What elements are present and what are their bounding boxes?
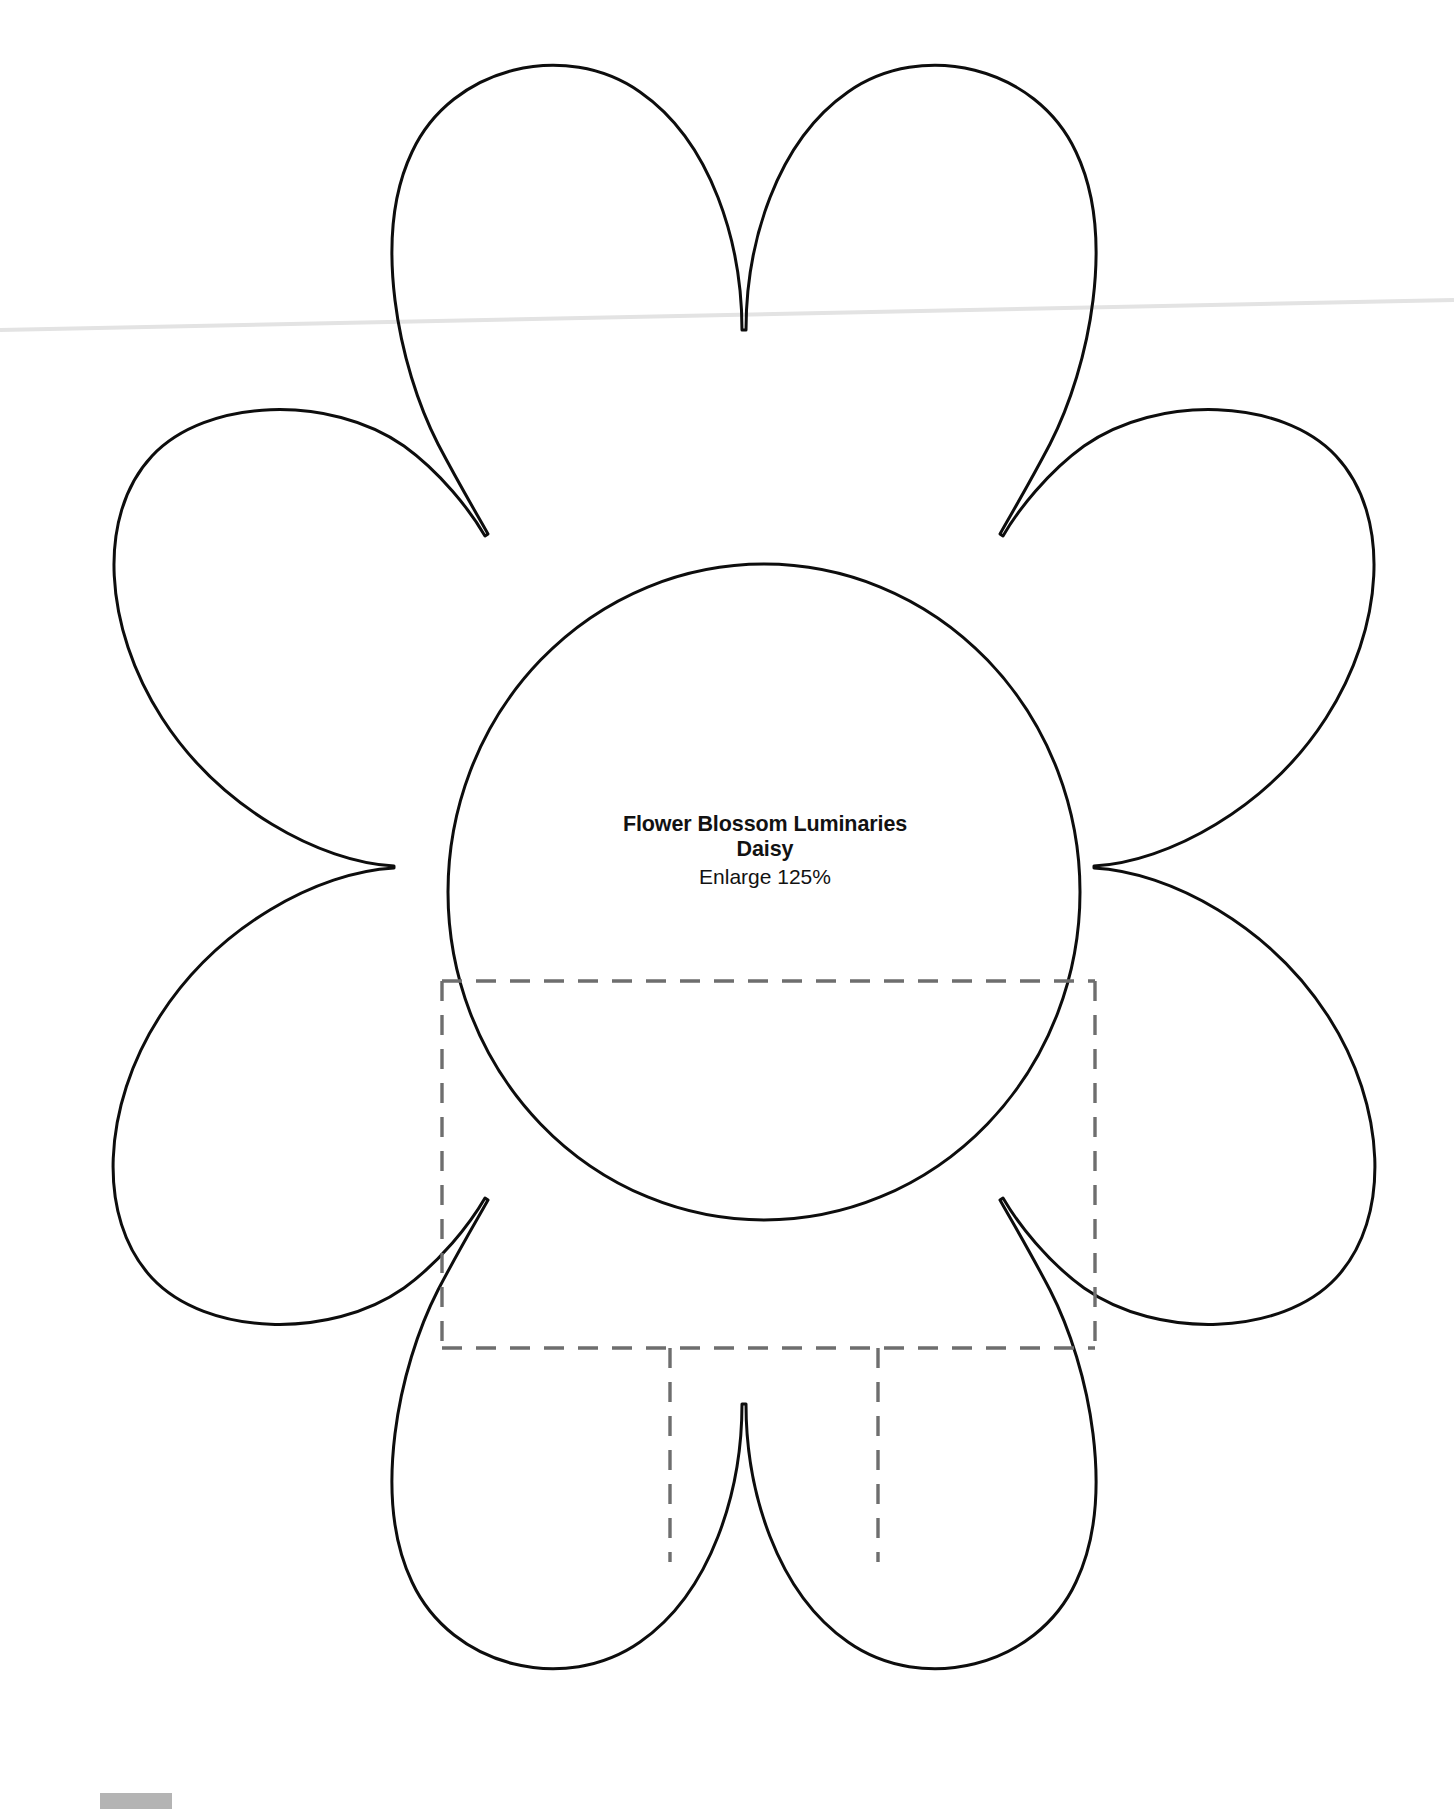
- template-title: Flower Blossom Luminaries: [560, 812, 970, 837]
- template-label-block: Flower Blossom Luminaries Daisy Enlarge …: [560, 812, 970, 889]
- scan-edge-artifact: [100, 1793, 172, 1809]
- flower-template-svg: [0, 0, 1454, 1811]
- center-circle: [448, 564, 1080, 1220]
- template-enlarge-note: Enlarge 125%: [560, 865, 970, 890]
- scan-streak-artifact: [0, 300, 1454, 330]
- template-page: Flower Blossom Luminaries Daisy Enlarge …: [0, 0, 1454, 1811]
- template-subtitle: Daisy: [560, 837, 970, 862]
